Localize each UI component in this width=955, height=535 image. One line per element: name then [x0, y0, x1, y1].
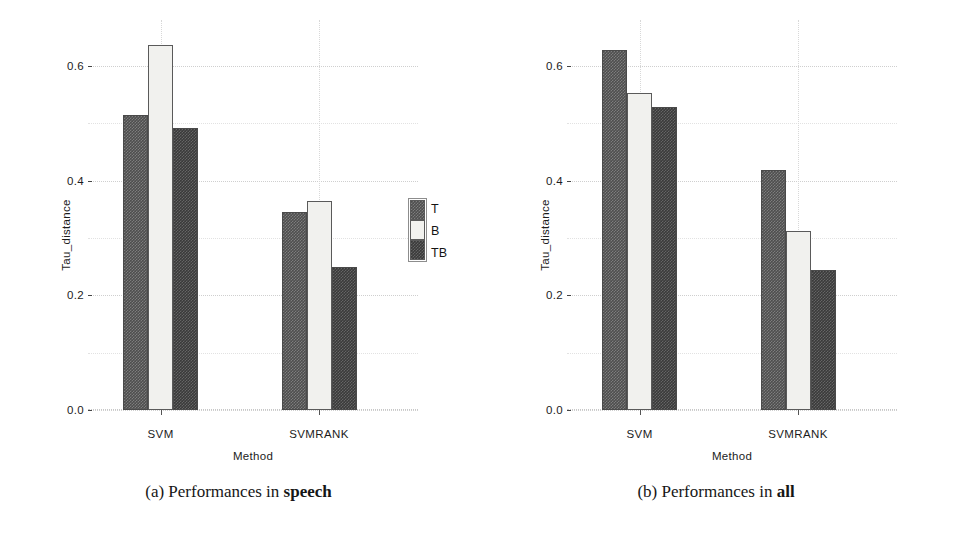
x-axis-tick-mark — [161, 410, 162, 415]
x-axis-tick-mark — [798, 410, 799, 415]
caption-all-emphasis: all — [777, 482, 795, 501]
x-axis-label: Method — [712, 450, 752, 462]
gridline-y — [88, 410, 418, 412]
legend-speech: TBTB — [408, 198, 447, 264]
x-axis-tick-label-svm: SVM — [627, 428, 653, 440]
bar-svmrank-t — [761, 170, 786, 410]
bar-svm-tb — [173, 128, 198, 410]
gridline-y — [88, 66, 418, 68]
y-axis-label: Tau_distance — [539, 199, 551, 270]
y-axis-tick-label: 0.2 — [546, 289, 567, 301]
legend-swatch-box — [408, 198, 427, 262]
legend-label-tb: TB — [431, 242, 447, 264]
gridline-y — [567, 410, 897, 412]
y-axis-tick-label: 0.4 — [67, 175, 88, 187]
plot-area-all: 0.00.20.40.6SVMSVMRANKMethod — [567, 20, 897, 410]
y-axis-tick-label: 0.2 — [67, 289, 88, 301]
bar-svmrank-tb — [332, 267, 357, 410]
caption-speech-prefix: (a) Performances in — [145, 482, 283, 501]
x-axis-label: Method — [233, 450, 273, 462]
bar-svmrank-tb — [811, 270, 836, 411]
x-axis-tick-label-svmrank: SVMRANK — [289, 428, 349, 440]
legend-label-column: TBTB — [431, 198, 447, 264]
legend-swatch-b — [410, 220, 425, 240]
x-axis-tick-label-svmrank: SVMRANK — [768, 428, 828, 440]
legend-label-b: B — [431, 220, 447, 242]
y-axis-tick-label: 0.4 — [546, 175, 567, 187]
bar-svm-tb — [652, 107, 677, 410]
chart-panel-speech: Tau_distance 0.00.20.40.6SVMSVMRANKMetho… — [0, 0, 477, 470]
bar-svmrank-b — [307, 201, 332, 410]
legend-swatch-t — [410, 200, 425, 220]
caption-speech-emphasis: speech — [284, 482, 332, 501]
y-axis-tick-label: 0.0 — [546, 404, 567, 416]
caption-all: (b) Performances in all — [477, 470, 955, 535]
x-axis-tick-mark — [640, 410, 641, 415]
legend-swatch-tb — [410, 240, 425, 260]
y-axis-tick-label: 0.0 — [67, 404, 88, 416]
legend-label-t: T — [431, 198, 447, 220]
caption-speech: (a) Performances in speech — [0, 470, 477, 535]
bar-svmrank-t — [282, 212, 307, 410]
x-axis-tick-mark — [319, 410, 320, 415]
y-axis-label: Tau_distance — [60, 199, 72, 270]
captions-row: (a) Performances in speech (b) Performan… — [0, 470, 955, 535]
x-axis-tick-label-svm: SVM — [148, 428, 174, 440]
bar-svmrank-b — [786, 231, 811, 411]
y-axis-tick-label: 0.6 — [67, 60, 88, 72]
bar-svm-t — [123, 115, 148, 410]
bar-svm-b — [627, 93, 652, 410]
caption-all-prefix: (b) Performances in — [637, 482, 776, 501]
chart-panel-all: Tau_distance 0.00.20.40.6SVMSVMRANKMetho… — [477, 0, 955, 470]
y-axis-tick-label: 0.6 — [546, 60, 567, 72]
plot-area-speech: 0.00.20.40.6SVMSVMRANKMethod — [88, 20, 418, 410]
figure-row: Tau_distance 0.00.20.40.6SVMSVMRANKMetho… — [0, 0, 955, 470]
bar-svm-t — [602, 50, 627, 410]
bar-svm-b — [148, 45, 173, 410]
